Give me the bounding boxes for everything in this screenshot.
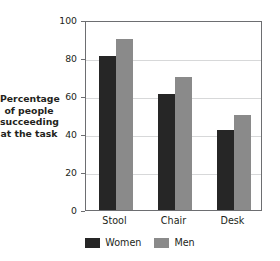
y-axis-title-line-4: at the task xyxy=(0,128,58,140)
legend-entry-women: Women xyxy=(85,238,141,248)
y-tick-label: 80 xyxy=(53,54,77,63)
y-tick-label: 0 xyxy=(53,206,77,215)
y-tick-label: 60 xyxy=(53,92,77,101)
chart-legend: WomenMen xyxy=(0,238,280,248)
y-tick-label: 40 xyxy=(53,130,77,139)
y-axis-title-line-3: succeeding xyxy=(0,116,58,128)
bar-desk-men xyxy=(234,115,251,210)
legend-swatch-men xyxy=(154,238,169,248)
legend-swatch-women xyxy=(85,238,100,248)
bar-chart-figure: Percentage of people succeeding at the t… xyxy=(0,0,280,261)
y-axis-title-line-2: of people xyxy=(0,105,58,117)
bar-desk-women xyxy=(217,130,234,210)
legend-label-women: Women xyxy=(105,238,141,248)
bar-stool-men xyxy=(116,39,133,210)
bar-chair-men xyxy=(175,77,192,210)
bar-chair-women xyxy=(158,94,175,210)
y-tick-label: 20 xyxy=(53,168,77,177)
y-axis-title-line-1: Percentage xyxy=(0,93,58,105)
bar-stool-women xyxy=(99,56,116,210)
y-tick-mark xyxy=(81,211,85,212)
legend-entry-men: Men xyxy=(154,238,194,248)
plot-area xyxy=(85,21,262,211)
y-tick-label: 100 xyxy=(53,16,77,25)
x-tick-label-chair: Chair xyxy=(144,215,204,226)
y-axis-title: Percentage of people succeeding at the t… xyxy=(0,93,58,139)
x-tick-label-stool: Stool xyxy=(85,215,145,226)
legend-label-men: Men xyxy=(174,238,194,248)
x-tick-label-desk: Desk xyxy=(203,215,263,226)
